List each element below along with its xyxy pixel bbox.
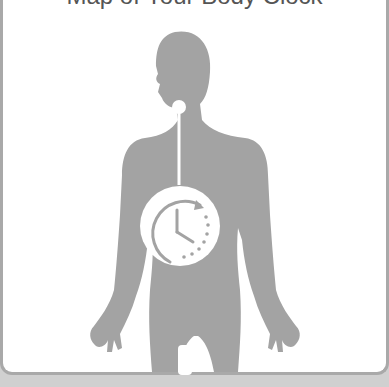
body-clock-diagram	[0, 0, 389, 387]
connector-line	[178, 110, 181, 185]
leg-gap	[178, 345, 192, 375]
